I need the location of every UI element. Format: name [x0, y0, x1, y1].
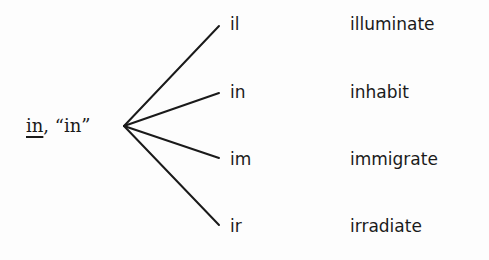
variant-ir: ir: [230, 216, 242, 236]
branch-line-in: [124, 93, 219, 126]
example-inhabit: inhabit: [350, 82, 409, 102]
example-irradiate: irradiate: [350, 216, 422, 236]
root-separator: ,: [43, 115, 54, 136]
example-illuminate: illuminate: [350, 14, 435, 34]
branch-line-il: [124, 26, 219, 126]
root-label: in, “in”: [26, 116, 91, 136]
example-immigrate: immigrate: [350, 149, 438, 169]
variant-il: il: [230, 14, 239, 34]
root-meaning: “in”: [55, 115, 91, 136]
variant-im: im: [230, 149, 251, 169]
branch-line-ir: [124, 126, 219, 225]
variant-in: in: [230, 82, 246, 102]
root-prefix: in: [26, 115, 43, 136]
prefix-tree-diagram: in, “in” il in im ir illuminate inhabit …: [0, 0, 489, 260]
